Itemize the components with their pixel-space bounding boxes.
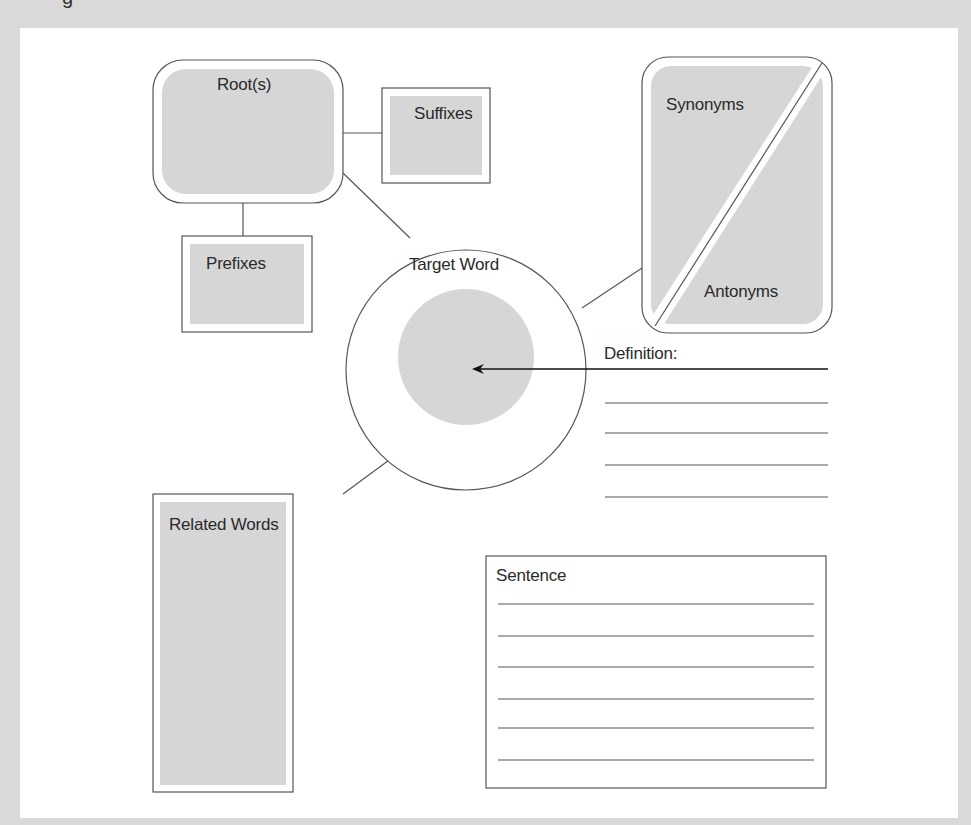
related-words-box (153, 494, 293, 792)
target-word-circle (346, 250, 586, 490)
roots-label: Root(s) (217, 75, 271, 95)
sentence-box (486, 556, 826, 788)
target-word-label: Target Word (409, 255, 499, 275)
definition-label: Definition: (604, 344, 677, 364)
suffixes-box (382, 88, 490, 183)
antonyms-label: Antonyms (704, 282, 778, 302)
prefixes-box (182, 236, 312, 332)
related-words-label: Related Words (169, 515, 279, 535)
vocabulary-map-diagram (0, 0, 971, 825)
sentence-label: Sentence (496, 566, 566, 586)
target-word-fill (398, 289, 534, 425)
connector-target-synonyms (582, 268, 642, 308)
prefixes-label: Prefixes (206, 254, 266, 274)
synonyms-label: Synonyms (666, 95, 744, 115)
suffixes-label: Suffixes (414, 104, 473, 124)
